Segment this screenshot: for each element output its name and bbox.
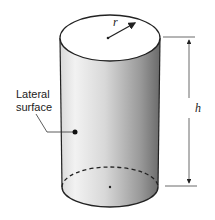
lateral-label-line2: surface xyxy=(16,101,52,114)
radius-label: r xyxy=(113,15,118,30)
lateral-surface xyxy=(60,38,160,207)
cylinder-diagram: Lateral surface r h xyxy=(0,0,215,220)
lateral-surface-dot xyxy=(73,130,78,135)
bottom-center-dot xyxy=(109,186,111,188)
height-label: h xyxy=(195,101,201,116)
lateral-label-line1: Lateral xyxy=(16,88,52,101)
top-base xyxy=(60,15,160,61)
lateral-surface-label: Lateral surface xyxy=(16,88,52,114)
